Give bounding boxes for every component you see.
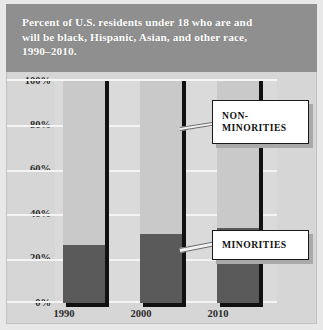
minority-segment-2000 [140, 234, 182, 303]
callout-minorities[interactable]: MINORITIES [212, 230, 309, 260]
chart-title-line-2: will be black, Hispanic, Asian, and othe… [22, 30, 302, 45]
chart-title-line-1: Percent of U.S. residents under 18 who a… [22, 15, 302, 30]
chart-title-line-3: 1990–2010. [22, 44, 302, 59]
minority-segment-1990 [63, 245, 105, 303]
column-shadow-1990 [105, 81, 109, 303]
x-tick-label-1990: 1990 [36, 308, 92, 319]
callout-text-non-minorities: NON- MINORITIES [222, 110, 287, 135]
column-shadow-2000 [182, 81, 186, 303]
callout-non-minorities-line-1: NON- [222, 110, 287, 123]
column-base-shadow-1990 [66, 303, 109, 307]
chart-title: Percent of U.S. residents under 18 who a… [22, 15, 302, 59]
chart-screenshot: Percent of U.S. residents under 18 who a… [0, 0, 323, 330]
callout-non-minorities[interactable]: NON- MINORITIES [212, 100, 309, 144]
callout-text-minorities: MINORITIES [222, 239, 287, 252]
callout-non-minorities-line-2: MINORITIES [222, 122, 287, 135]
x-tick-label-2000: 2000 [113, 308, 169, 319]
chart-title-band: Percent of U.S. residents under 18 who a… [6, 4, 317, 72]
x-tick-label-2010: 2010 [190, 308, 246, 319]
column-base-shadow-2010 [220, 303, 263, 307]
callout-minorities-line-1: MINORITIES [222, 239, 287, 252]
y-tick-label-0: 0% [7, 298, 51, 308]
bar-column-2000[interactable] [140, 81, 186, 303]
y-tick-label-100: 100% [7, 76, 51, 86]
column-base-shadow-2000 [143, 303, 186, 307]
bar-column-1990[interactable] [63, 81, 109, 303]
